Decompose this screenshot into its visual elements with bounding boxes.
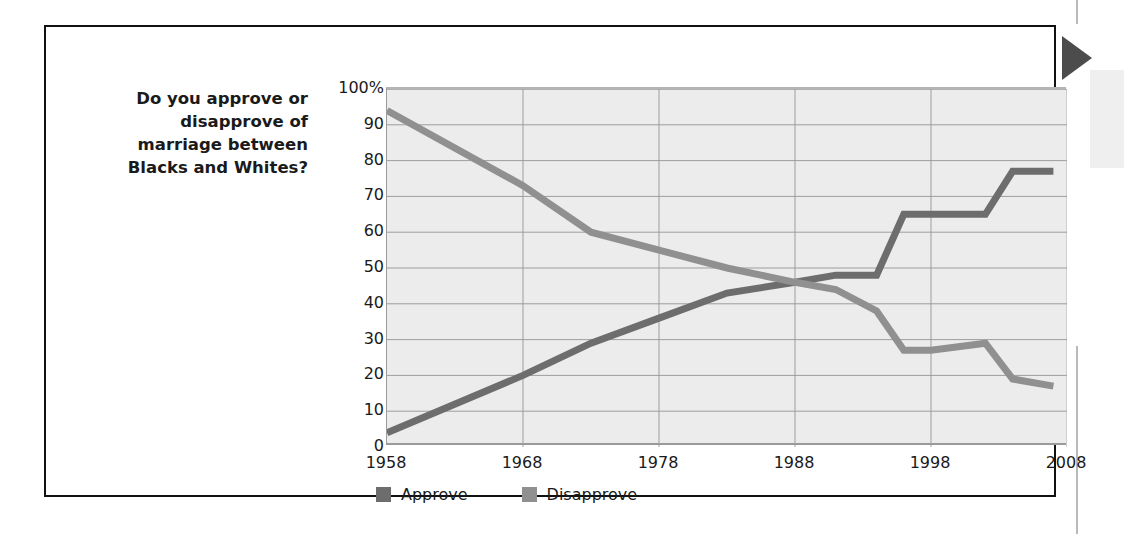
legend-swatch-icon xyxy=(376,487,391,502)
series-line xyxy=(387,110,1053,386)
chart-legend: ApproveDisapprove xyxy=(376,485,637,504)
line-chart: 0102030405060708090100% 1958196819781988… xyxy=(340,69,1080,449)
x-axis-tick-label: 1998 xyxy=(910,453,951,472)
y-axis-tick-label: 70 xyxy=(332,185,384,204)
legend-item[interactable]: Disapprove xyxy=(522,485,638,504)
series-line xyxy=(387,171,1053,432)
x-axis-tick-label: 1958 xyxy=(366,453,407,472)
chart-card: Do you approve or disapprove of marriage… xyxy=(44,25,1056,497)
plot-svg xyxy=(387,89,1067,447)
y-axis-tick-label: 0 xyxy=(332,436,384,455)
x-axis-tick-label: 1968 xyxy=(502,453,543,472)
x-axis-tick-label: 1978 xyxy=(638,453,679,472)
y-axis-tick-label: 80 xyxy=(332,149,384,168)
y-axis-tick-label: 90 xyxy=(332,113,384,132)
legend-label: Disapprove xyxy=(547,485,638,504)
y-axis-tick-label: 60 xyxy=(332,221,384,240)
x-axis-tick-label: 1988 xyxy=(774,453,815,472)
screenshot-root: Do you approve or disapprove of marriage… xyxy=(0,0,1127,534)
margin-artifact xyxy=(1090,70,1124,168)
legend-label: Approve xyxy=(401,485,468,504)
y-axis-tick-label: 20 xyxy=(332,364,384,383)
y-axis: 0102030405060708090100% xyxy=(328,87,384,445)
chart-question-caption: Do you approve or disapprove of marriage… xyxy=(108,87,308,179)
plot-area xyxy=(386,87,1066,445)
y-axis-tick-label: 50 xyxy=(332,257,384,276)
y-axis-tick-label: 30 xyxy=(332,328,384,347)
x-axis-tick-label: 2008 xyxy=(1046,453,1087,472)
legend-item[interactable]: Approve xyxy=(376,485,468,504)
y-axis-tick-label: 100% xyxy=(332,78,384,97)
legend-swatch-icon xyxy=(522,487,537,502)
page-margin-rule-top xyxy=(1076,0,1078,24)
y-axis-tick-label: 40 xyxy=(332,292,384,311)
y-axis-tick-label: 10 xyxy=(332,400,384,419)
